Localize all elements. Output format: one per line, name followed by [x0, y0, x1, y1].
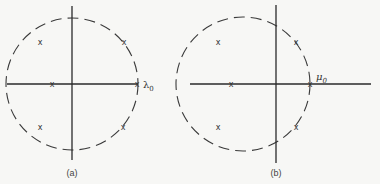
x-mark: x [294, 123, 299, 132]
marks-b: x x x x x x [216, 38, 313, 132]
panel-a: x x x x x x λ0 (a) [6, 6, 154, 178]
marks-a: x x x x x x [38, 38, 140, 132]
mu-subscript: 0 [323, 77, 328, 85]
x-mark: x [308, 80, 313, 89]
lambda-label: λ0 [143, 79, 154, 93]
panel-b: x x x x x x μ0 (b) [176, 5, 371, 178]
x-mark: x [50, 80, 55, 89]
x-mark: x [216, 123, 221, 132]
figure: x x x x x x λ0 (a) x x x x x x μ0 (b) [0, 0, 380, 184]
x-mark: x [135, 80, 140, 89]
x-mark: x [121, 123, 126, 132]
mu-label: μ0 [316, 71, 328, 85]
lambda-subscript: 0 [149, 85, 153, 93]
x-mark: x [216, 38, 221, 47]
x-mark: x [38, 123, 43, 132]
x-mark: x [38, 38, 43, 47]
x-mark: x [294, 38, 299, 47]
caption-a: (a) [67, 168, 78, 178]
x-mark: x [229, 80, 234, 89]
caption-b: (b) [271, 168, 282, 178]
x-mark: x [122, 38, 127, 47]
